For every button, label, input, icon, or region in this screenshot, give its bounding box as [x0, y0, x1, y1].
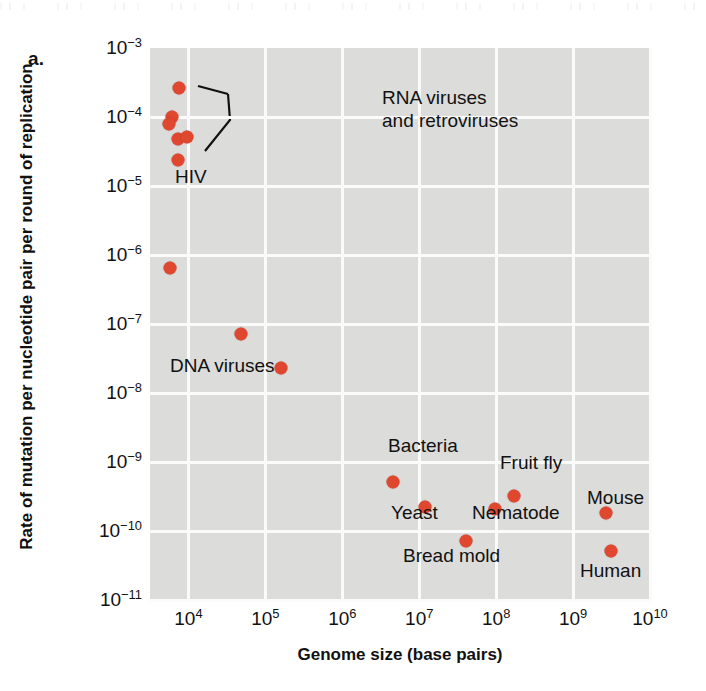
y-tick-label: 10−11 [100, 589, 142, 611]
gridline-horizontal [150, 599, 650, 602]
x-axis-ticks: 1041051061071081091010 [150, 608, 650, 636]
data-point [275, 362, 288, 375]
annotation-rna-viruses: RNA viruses and retroviruses [382, 86, 518, 132]
annotation-human: Human [580, 559, 641, 582]
annotation-mouse: Mouse [587, 486, 644, 509]
y-tick-label: 10−5 [106, 175, 142, 197]
data-point [163, 117, 176, 130]
data-point [164, 261, 177, 274]
gridline-horizontal [150, 530, 650, 533]
annotation-bacteria: Bacteria [388, 434, 458, 457]
gridline-horizontal [150, 461, 650, 464]
gridline-horizontal [150, 392, 650, 395]
data-point [181, 130, 194, 143]
annotation-bread-mold: Bread mold [403, 544, 500, 567]
annotation-fruit-fly: Fruit fly [500, 451, 562, 474]
x-tick-label: 104 [174, 608, 202, 630]
gridline-horizontal [150, 185, 650, 188]
x-tick-label: 105 [251, 608, 279, 630]
y-axis-title: Rate of mutation per nucleotide pair per… [16, 46, 39, 566]
gridline-horizontal [150, 323, 650, 326]
y-tick-label: 10−3 [106, 37, 142, 59]
x-axis-title: Genome size (base pairs) [150, 645, 650, 665]
annotation-dna-viruses: DNA viruses [170, 354, 275, 377]
y-tick-label: 10−4 [106, 106, 142, 128]
y-tick-label: 10−10 [99, 520, 142, 542]
x-tick-label: 108 [482, 608, 510, 630]
x-tick-label: 106 [328, 608, 356, 630]
data-point [604, 544, 617, 557]
data-point [173, 82, 186, 95]
gridline-horizontal [150, 254, 650, 257]
y-axis-ticks: 10−310−410−510−610−710−810−910−1010−11 [58, 48, 142, 600]
x-tick-label: 1010 [632, 608, 668, 630]
annotation-nematode: Nematode [472, 501, 560, 524]
annotation-hiv: HIV [175, 165, 207, 188]
data-point [387, 475, 400, 488]
data-point [234, 327, 247, 340]
x-tick-label: 107 [405, 608, 433, 630]
y-tick-label: 10−8 [106, 382, 142, 404]
annotation-yeast: Yeast [391, 501, 438, 524]
scan-artifact [0, 3, 706, 10]
y-axis-title-wrap: Rate of mutation per nucleotide pair per… [0, 0, 60, 691]
y-tick-label: 10−7 [106, 313, 142, 335]
y-tick-label: 10−6 [106, 244, 142, 266]
y-tick-label: 10−9 [106, 451, 142, 473]
figure-panel-a: a. Rate of mutation per nucleotide pair … [0, 0, 706, 691]
plot-area: RNA viruses and retrovirusesHIVDNA virus… [150, 48, 650, 600]
x-tick-label: 109 [559, 608, 587, 630]
